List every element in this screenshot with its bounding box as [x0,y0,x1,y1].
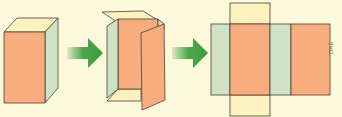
net-top-flap [230,3,270,24]
arrow-right-icon [172,38,208,68]
arrow-right-icon [67,38,103,68]
opening-cuboid [102,11,165,110]
net-bottom-flap [230,95,270,116]
open-front-door [141,24,165,110]
credit-label: DAE [328,41,334,54]
cuboid-front-face [4,32,45,103]
cuboid-side-face [45,18,58,103]
open-left-side-face [107,19,118,98]
net-right-side [270,24,291,95]
closed-cuboid [4,18,58,103]
cuboid-net-diagram [0,0,342,117]
net-front-face [230,24,270,95]
net-left-side [211,24,230,95]
cuboid-net [211,3,330,116]
net-back-face [291,24,330,95]
